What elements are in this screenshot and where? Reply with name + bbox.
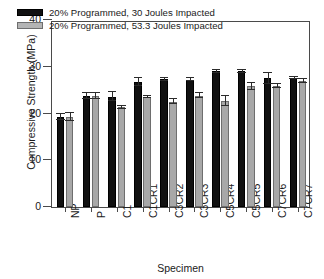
error-bar-cap [108,91,117,92]
bar [57,117,65,207]
legend-swatch-icon [17,9,43,16]
error-bar-cap [195,97,204,98]
plot-inner: 010203040NPPC1C1CR1C3CR2C3CR3C5CR4C5CR5C… [52,22,309,207]
error-bar-cap [91,92,100,93]
error-bar-cap [272,83,281,84]
y-axis-tick-label: 10 [29,153,41,165]
error-bar-cap [212,69,221,70]
bar [195,96,203,207]
error-bar-cap [91,98,100,99]
y-axis-title: Compressive Strength (MPa) [25,2,37,202]
error-bar-cap [117,108,126,109]
error-bar-cap [186,80,195,81]
legend-swatch-icon [17,22,43,29]
error-bar-cap [272,87,281,88]
bar [160,79,168,207]
error-bar-cap [82,98,91,99]
error-bar-cap [160,77,169,78]
bar [169,102,177,207]
bar [264,78,272,207]
error-bar-cap [186,77,195,78]
error-bar-cap [169,98,178,99]
error-bar-cap [143,95,152,96]
error-bar-cap [160,80,169,81]
error-bar-cap [108,100,117,101]
error-bar-cap [298,82,307,83]
error-bar-cap [134,85,143,86]
legend-item: 20% Programmed, 53.3 Joules Impacted [17,19,223,32]
x-axis-tick [117,207,118,212]
x-axis-tick [143,207,144,212]
bar [247,86,255,207]
error-bar-cap [169,103,178,104]
legend-item: 20% Programmed, 30 Joules Impacted [17,6,223,19]
bar [186,80,194,207]
error-bar-cap [117,105,126,106]
x-axis-title: Specimen [51,262,310,274]
x-axis-tick [246,207,247,212]
error-bar-cap [82,92,91,93]
bar [273,86,281,207]
error-bar-cap [195,92,204,93]
error-bar-cap [65,112,74,113]
bar [212,71,220,207]
error-bar-cap [221,105,230,106]
error-bar-cap [247,89,256,90]
x-axis-tick [194,207,195,212]
bar [143,97,151,207]
error-bar-cap [263,83,272,84]
error-bar-cap [134,77,143,78]
chart-figure: Compressive Strength (MPa) 010203040NPPC… [0,0,324,279]
error-bar-cap [289,78,298,79]
error-bar-cap [263,72,272,73]
chart-legend: 20% Programmed, 30 Joules Impacted20% Pr… [17,6,223,32]
error-bar-cap [237,69,246,70]
bar [108,97,116,207]
y-axis-tick-label: 0 [35,200,41,212]
y-axis-tick-label: 20 [29,107,41,119]
x-axis-tick [298,207,299,212]
x-axis-tick [65,207,66,212]
y-axis-tick: 30 [43,66,52,67]
bar [290,78,298,207]
legend-label: 20% Programmed, 30 Joules Impacted [49,6,215,19]
y-axis-tick: 0 [43,206,52,207]
y-axis-tick-label: 30 [29,60,41,72]
bar [299,81,307,207]
x-axis-tick [169,207,170,212]
bar [92,96,100,207]
x-axis-tick [220,207,221,212]
error-bar-cap [298,78,307,79]
bar [66,117,74,207]
error-bar-cap [56,113,65,114]
x-axis-tick [91,207,92,212]
bar [221,101,229,207]
error-bar-cap [212,72,221,73]
error-bar-cap [289,76,298,77]
error-bar-cap [237,72,246,73]
error-bar-cap [65,120,74,121]
error-bar-cap [56,119,65,120]
x-axis-tick [272,207,273,212]
error-bar-cap [247,82,256,83]
y-axis-tick: 20 [43,113,52,114]
bar [134,82,142,207]
error-bar-cap [221,95,230,96]
error-bar-cap [143,97,152,98]
bar [118,107,126,207]
plot-area: 010203040NPPC1C1CR1C3CR2C3CR3C5CR4C5CR5C… [51,21,310,208]
y-axis-tick: 10 [43,159,52,160]
bar [238,71,246,207]
legend-label: 20% Programmed, 53.3 Joules Impacted [49,19,223,32]
bar [83,96,91,207]
x-axis-tick-label: P [95,211,107,218]
